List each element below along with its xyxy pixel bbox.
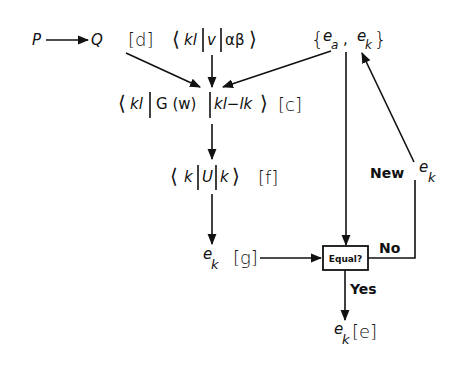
svg-text:⟨: ⟨ (172, 27, 180, 51)
svg-text:k: k (428, 170, 436, 185)
svg-text:New: New (370, 165, 404, 181)
svg-text:U: U (202, 168, 213, 186)
svg-text:k: k (184, 168, 194, 186)
arrow-energies-to-g (223, 51, 331, 87)
svg-text:⟩: ⟩ (260, 91, 268, 115)
node-ek-e: e k [e] (334, 320, 377, 347)
svg-text:⟨: ⟨ (118, 91, 126, 115)
svg-text:⟨: ⟨ (170, 164, 178, 188)
svg-text:Equal?: Equal? (329, 254, 362, 264)
node-energies: { e a , e k } (311, 27, 387, 52)
arrow-d-to-g (126, 53, 200, 87)
svg-text:kl: kl (130, 95, 144, 113)
svg-text:[c]: [c] (278, 94, 302, 115)
svg-text:⟩: ⟩ (232, 164, 240, 188)
svg-text:[g]: [g] (233, 247, 258, 268)
svg-text:αβ: αβ (225, 31, 244, 49)
svg-text:k: k (220, 168, 230, 186)
svg-text:kl−lk: kl−lk (214, 95, 254, 113)
svg-text:a: a (331, 38, 338, 52)
label-d: [d] (128, 29, 153, 50)
node-p: P (32, 31, 42, 49)
label-no: No (379, 240, 401, 256)
node-matrix-u: ⟨ k U k ⟩ [f] (170, 164, 278, 190)
svg-text:G (w): G (w) (156, 95, 196, 113)
svg-text:kl: kl (184, 31, 198, 49)
svg-text:k: k (365, 38, 373, 52)
svg-text:}: } (374, 27, 387, 51)
label-yes: Yes (349, 281, 377, 297)
svg-text:[f]: [f] (258, 167, 278, 188)
svg-text:k: k (211, 257, 219, 272)
svg-text:{: { (311, 27, 324, 51)
node-matrix-v: ⟨ kl v αβ ⟩ (172, 27, 257, 52)
arrow-new-ek-to-energies (362, 53, 414, 162)
node-new-ek: New e k (370, 158, 436, 185)
svg-text:,: , (343, 30, 348, 48)
svg-text:k: k (342, 332, 350, 347)
node-matrix-g: ⟨ kl G (w) kl−lk ⟩ [c] (118, 91, 302, 118)
svg-text:e: e (419, 158, 428, 176)
svg-text:⟩: ⟩ (249, 27, 257, 51)
svg-text:[e]: [e] (352, 321, 377, 342)
node-ek-g: e k [g] (203, 245, 258, 272)
flow-diagram: P Q [d] ⟨ kl v αβ ⟩ { e a , e k } ⟨ kl G… (0, 0, 458, 368)
node-q: Q (91, 31, 103, 49)
svg-text:v: v (207, 31, 217, 49)
decision-equal: Equal? (323, 246, 368, 270)
